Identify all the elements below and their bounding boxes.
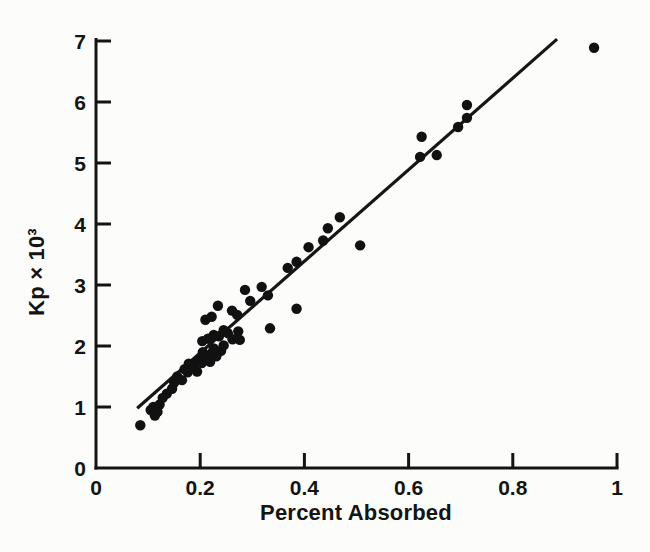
data-point (416, 132, 426, 142)
data-point (291, 257, 301, 267)
y-tick-label: 4 (74, 213, 86, 236)
data-point (432, 150, 442, 160)
data-point (462, 113, 472, 123)
scatter-plot-figure: 0123456700.20.40.60.81 Percent Absorbed … (0, 0, 650, 552)
y-tick-label: 6 (74, 91, 86, 114)
x-tick-label: 0 (90, 476, 102, 499)
x-tick-label: 0.4 (290, 476, 320, 499)
data-point (415, 152, 425, 162)
data-point (206, 312, 216, 322)
data-point (453, 122, 463, 132)
x-tick-label: 0.8 (498, 476, 528, 499)
y-tick-label: 0 (74, 457, 86, 480)
y-tick-label: 5 (74, 152, 86, 175)
y-axis-title: Kp × 10³ (24, 228, 50, 316)
data-point (263, 290, 273, 300)
data-point (335, 212, 345, 222)
data-point (218, 340, 228, 350)
data-point (323, 223, 333, 233)
y-tick-label: 2 (74, 335, 86, 358)
data-point (355, 240, 365, 250)
x-tick-label: 0.6 (394, 476, 423, 499)
data-point (318, 235, 328, 245)
x-tick-label: 0.2 (186, 476, 215, 499)
y-tick-label: 7 (74, 30, 86, 53)
data-point (135, 420, 145, 430)
data-point (245, 296, 255, 306)
data-point (291, 304, 301, 314)
data-point (265, 323, 275, 333)
plot-canvas: 0123456700.20.40.60.81 (0, 0, 650, 552)
data-point (256, 282, 266, 292)
x-axis-title: Percent Absorbed (260, 500, 452, 526)
data-point (303, 242, 313, 252)
data-point (232, 310, 242, 320)
y-tick-label: 3 (74, 274, 86, 297)
data-point (240, 285, 250, 295)
data-point (233, 326, 243, 336)
data-point (283, 263, 293, 273)
x-tick-label: 1 (611, 476, 623, 499)
data-point (462, 100, 472, 110)
y-tick-label: 1 (74, 396, 86, 419)
data-point (213, 301, 223, 311)
data-point (589, 43, 599, 53)
